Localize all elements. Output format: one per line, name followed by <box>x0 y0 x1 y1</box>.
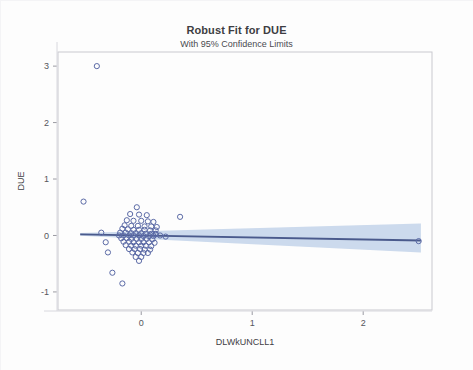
data-point <box>128 211 133 216</box>
data-points <box>81 64 421 287</box>
data-point <box>120 281 125 286</box>
data-point <box>131 218 136 223</box>
data-point <box>94 64 99 69</box>
robust-fit-scatter-plot: 012 -10123 DLWkUNCLL1 DUE <box>0 0 473 370</box>
x-tick-label: 1 <box>250 318 255 328</box>
y-tick-label: -1 <box>41 287 49 297</box>
data-point <box>139 218 144 223</box>
chart-canvas: Robust Fit for DUE With 95% Confidence L… <box>0 0 473 370</box>
y-tick-label: 2 <box>44 118 49 128</box>
data-point <box>154 224 159 229</box>
data-point <box>110 270 115 275</box>
data-point <box>81 199 86 204</box>
x-tick-label: 2 <box>361 318 366 328</box>
y-tick-label: 0 <box>44 231 49 241</box>
data-point <box>144 213 149 218</box>
data-point <box>124 218 129 223</box>
x-tick-label: 0 <box>139 318 144 328</box>
data-point <box>103 240 108 245</box>
y-axis-ticks: -10123 <box>41 42 57 311</box>
y-tick-label: 3 <box>44 61 49 71</box>
data-point <box>145 219 150 224</box>
x-axis-label: DLWkUNCLL1 <box>216 337 274 347</box>
y-axis-label: DUE <box>16 171 26 190</box>
y-tick-label: 1 <box>44 174 49 184</box>
data-point <box>105 250 110 255</box>
data-point <box>136 212 141 217</box>
x-axis-ticks: 012 <box>44 311 432 328</box>
data-point <box>134 205 139 210</box>
data-point <box>177 214 182 219</box>
